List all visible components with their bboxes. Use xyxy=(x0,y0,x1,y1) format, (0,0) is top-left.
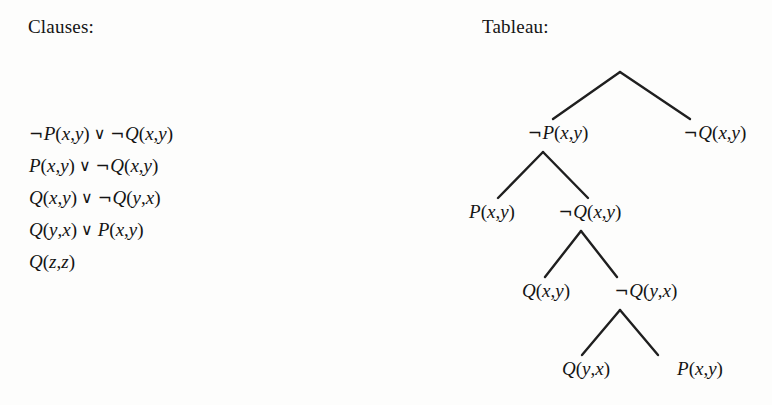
disjunction-symbol: ∨ xyxy=(77,188,98,207)
predicate-symbol: Q xyxy=(573,201,587,222)
term-variable: x xyxy=(487,201,495,222)
term-variable: x xyxy=(663,280,671,301)
term-variable: x xyxy=(542,280,550,301)
term-variable: y xyxy=(582,358,590,379)
term-variable: z xyxy=(61,251,68,272)
clause-row: ¬P(x,y)∨¬Q(x,y) xyxy=(29,118,359,150)
clause-row: Q(x,y)∨¬Q(y,x) xyxy=(29,182,359,214)
clause-row: P(x,y)∨¬Q(x,y) xyxy=(29,150,359,182)
predicate-symbol: Q xyxy=(110,155,124,176)
term-variable: y xyxy=(133,187,141,208)
disjunction-symbol: ∨ xyxy=(77,220,98,239)
term-variable: x xyxy=(595,358,603,379)
negation-symbol: ¬ xyxy=(684,123,699,143)
disjunction-symbol: ∨ xyxy=(75,156,96,175)
term-variable: y xyxy=(649,280,657,301)
negation-symbol: ¬ xyxy=(559,202,574,222)
tableau-node: ¬Q(y,x) xyxy=(615,280,678,302)
clause-row: Q(z,z) xyxy=(29,246,359,278)
term-variable: x xyxy=(130,155,138,176)
negation-symbol: ¬ xyxy=(29,124,44,144)
figure-canvas: Clauses: Tableau: ¬P(x,y)∨¬Q(x,y)P(x,y)∨… xyxy=(0,0,772,405)
predicate-symbol: Q xyxy=(29,251,43,272)
clause-list: ¬P(x,y)∨¬Q(x,y)P(x,y)∨¬Q(x,y)Q(x,y)∨¬Q(y… xyxy=(29,118,359,278)
term-variable: y xyxy=(62,187,70,208)
term-variable: x xyxy=(146,187,154,208)
predicate-symbol: Q xyxy=(629,280,643,301)
tableau-edge xyxy=(581,231,617,277)
negation-symbol: ¬ xyxy=(110,124,125,144)
negation-symbol: ¬ xyxy=(528,123,543,143)
term-variable: x xyxy=(145,123,153,144)
predicate-symbol: Q xyxy=(698,122,712,143)
predicate-symbol: P xyxy=(469,201,481,222)
tableau-edge xyxy=(582,310,620,355)
term-variable: y xyxy=(555,280,563,301)
clauses-heading: Clauses: xyxy=(28,16,94,38)
negation-symbol: ¬ xyxy=(98,188,113,208)
predicate-symbol: Q xyxy=(29,187,43,208)
negation-symbol: ¬ xyxy=(96,156,111,176)
term-variable: y xyxy=(574,122,582,143)
tableau-edge xyxy=(620,310,658,355)
predicate-symbol: Q xyxy=(29,219,43,240)
term-variable: x xyxy=(718,122,726,143)
tableau-edge xyxy=(543,152,588,198)
disjunction-symbol: ∨ xyxy=(90,124,111,143)
tableau-node: ¬Q(x,y) xyxy=(684,122,747,144)
negation-symbol: ¬ xyxy=(615,281,630,301)
predicate-symbol: Q xyxy=(112,187,126,208)
predicate-symbol: P xyxy=(542,122,554,143)
term-variable: y xyxy=(49,219,57,240)
term-variable: x xyxy=(560,122,568,143)
predicate-symbol: P xyxy=(29,155,41,176)
term-variable: x xyxy=(695,358,703,379)
tableau-node: Q(y,x) xyxy=(562,358,610,380)
tableau-edge xyxy=(553,72,620,119)
predicate-symbol: P xyxy=(677,358,689,379)
tableau-node: P(x,y) xyxy=(469,201,515,223)
term-variable: y xyxy=(60,155,68,176)
tableau-node: ¬Q(x,y) xyxy=(559,201,622,223)
tableau-edge xyxy=(620,72,690,119)
term-variable: y xyxy=(732,122,740,143)
term-variable: y xyxy=(158,123,166,144)
tableau-heading: Tableau: xyxy=(482,16,549,38)
tableau-node: ¬P(x,y) xyxy=(528,122,589,144)
tableau-edge xyxy=(498,152,543,198)
predicate-symbol: Q xyxy=(562,358,576,379)
predicate-symbol: Q xyxy=(125,123,139,144)
clause-row: Q(y,x)∨P(x,y) xyxy=(29,214,359,246)
term-variable: y xyxy=(500,201,508,222)
predicate-symbol: Q xyxy=(522,280,536,301)
predicate-symbol: P xyxy=(44,123,56,144)
term-variable: y xyxy=(708,358,716,379)
term-variable: x xyxy=(116,219,124,240)
tableau-edge xyxy=(545,231,581,277)
term-variable: y xyxy=(607,201,615,222)
tableau-node: Q(x,y) xyxy=(522,280,570,302)
tableau-node: P(x,y) xyxy=(677,358,723,380)
term-variable: x xyxy=(593,201,601,222)
predicate-symbol: P xyxy=(98,219,110,240)
term-variable: x xyxy=(49,187,57,208)
term-variable: x xyxy=(62,219,70,240)
term-variable: x xyxy=(62,123,70,144)
term-variable: y xyxy=(144,155,152,176)
